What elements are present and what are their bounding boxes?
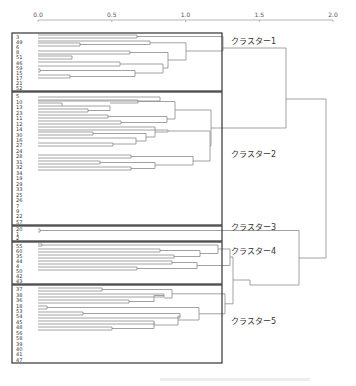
dendrogram-branch	[197, 249, 230, 266]
cluster-label: クラスター3	[231, 223, 276, 232]
leaf-labels: 3496851465915172152510132311121430162724…	[16, 34, 22, 363]
cluster-label: クラスター4	[231, 247, 276, 256]
dendrogram-branch	[38, 249, 160, 252]
dendrogram-branch	[38, 143, 113, 146]
dendrogram-branch	[38, 132, 93, 135]
dendrogram-branch	[38, 161, 100, 164]
dendrogram-branch	[62, 106, 110, 111]
leaf-label: 43	[16, 278, 22, 284]
cluster-box	[12, 226, 222, 241]
dendrogram-links	[38, 35, 326, 330]
axis-tick-label: 0.5	[107, 11, 117, 18]
dendrogram-branch	[38, 255, 174, 258]
dendrogram-branch	[38, 229, 40, 232]
axis-tick-label: 1.0	[181, 11, 191, 18]
dendrogram-branch	[38, 56, 72, 59]
dendrogram-branch	[38, 167, 131, 170]
cluster-label: クラスター2	[231, 150, 276, 159]
leaf-label: 2	[16, 235, 19, 241]
dendrogram-branch	[38, 121, 121, 124]
leaf-label: 57	[16, 219, 22, 225]
leaf-label: 47	[16, 357, 22, 363]
dendrogram-branch	[38, 312, 83, 315]
cluster-box	[12, 242, 222, 284]
dendrogram-branch	[137, 263, 197, 269]
dendrogram-branch	[38, 155, 131, 158]
dendrogram-branch	[172, 294, 225, 314]
dendrogram-branch	[38, 288, 102, 291]
dendrogram-chart: 0.00.51.01.52.0 349685146591517215251013…	[0, 0, 356, 386]
dendrogram-branch	[38, 306, 47, 309]
axis-tick-label: 0.0	[33, 11, 43, 18]
cluster-label: クラスター5	[231, 317, 276, 326]
dendrogram-branch	[38, 51, 130, 54]
dendrogram-branch	[225, 257, 233, 304]
dendrogram-branch	[38, 109, 88, 112]
caption-faint	[160, 378, 310, 381]
dendrogram-branch	[175, 110, 211, 146]
dendrogram-branch	[93, 134, 146, 142]
dendrogram-branch	[100, 163, 155, 169]
dendrogram-branch	[38, 314, 180, 319]
dendrogram-branch	[160, 251, 200, 257]
dendrogram-branch	[38, 300, 129, 303]
dendrogram-branch	[38, 100, 138, 103]
dendrogram-branch	[38, 69, 40, 72]
dendrogram-branch	[38, 115, 108, 118]
cluster-label: クラスター1	[231, 37, 276, 46]
dendrogram-branch	[38, 327, 112, 330]
dendrogram-branch	[40, 71, 135, 77]
dendrogram-branch	[38, 35, 137, 38]
dendrogram-branch	[38, 62, 120, 66]
dendrogram-branch	[129, 296, 164, 302]
dendrogram-branch	[131, 157, 193, 166]
cluster-labels: クラスター1クラスター2クラスター3クラスター4クラスター5	[231, 37, 276, 326]
dendrogram-branch	[120, 64, 163, 73]
dendrogram-branch	[130, 53, 168, 69]
dendrogram-branch	[38, 321, 154, 324]
dendrogram-branch	[38, 261, 172, 264]
x-axis: 0.00.51.01.52.0	[33, 11, 338, 22]
axis-tick-label: 1.5	[254, 11, 264, 18]
dendrogram-branch	[38, 294, 164, 297]
dendrogram-branch	[286, 99, 326, 258]
dendrogram-branch	[38, 75, 70, 78]
dendrogram-branch	[233, 280, 250, 285]
dendrogram-branch	[38, 244, 42, 246]
dendrogram-branch	[38, 267, 137, 270]
dendrogram-branch	[38, 43, 80, 46]
dendrogram-branch	[38, 103, 62, 106]
leaf-label: 52	[16, 85, 22, 91]
dendrogram-branch	[112, 323, 154, 329]
dendrogram-branch	[108, 117, 167, 123]
dendrogram-branch	[154, 316, 180, 325]
axis-tick-label: 2.0	[328, 11, 338, 18]
